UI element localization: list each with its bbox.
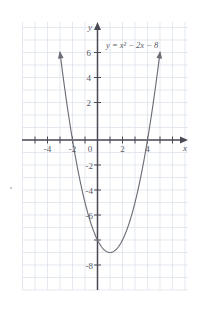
coordinate-plane: -4 -2 0 2 4 6 4 2 -2 -4 -6 -8 x y y = x²… <box>0 0 199 309</box>
y-tick-label: 4 <box>87 73 92 83</box>
x-axis <box>22 137 188 144</box>
x-axis-label: x <box>182 143 187 153</box>
x-tick-label: -4 <box>44 144 52 154</box>
y-tick-label: 6 <box>87 48 92 58</box>
y-tick-label: -4 <box>86 186 94 196</box>
equation-label: y = x² − 2x − 8 <box>105 40 159 50</box>
y-tick-label: -2 <box>86 161 94 171</box>
y-axis <box>94 22 101 290</box>
x-tick-label: -2 <box>69 144 77 154</box>
x-tick-label: 2 <box>120 144 125 154</box>
x-tick-label: 4 <box>145 144 150 154</box>
y-tick-label: 2 <box>87 98 92 108</box>
x-tick-label: 0 <box>88 144 93 154</box>
y-axis-label: y <box>87 22 92 32</box>
page-speck <box>10 187 12 189</box>
y-tick-label: -6 <box>86 211 94 221</box>
graph-figure: -4 -2 0 2 4 6 4 2 -2 -4 -6 -8 x y y = x²… <box>0 0 199 309</box>
y-tick-labels: 6 4 2 -2 -4 -6 -8 <box>86 48 94 271</box>
y-tick-label: -8 <box>86 261 94 271</box>
